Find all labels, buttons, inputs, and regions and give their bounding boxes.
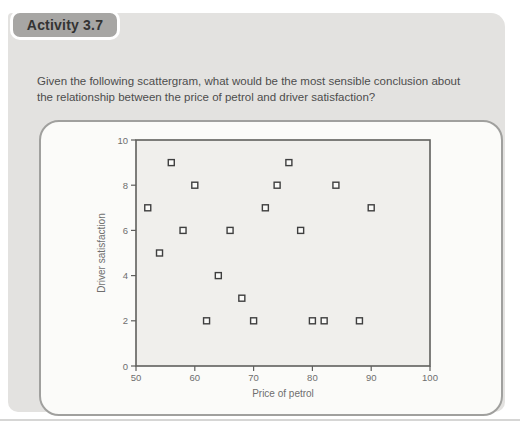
activity-badge: Activity 3.7 [10, 10, 120, 40]
question-line-1: Given the following scattergram, what wo… [37, 74, 507, 90]
scatter-point [180, 227, 186, 233]
x-tick-label: 80 [307, 372, 318, 383]
scatter-point [204, 318, 210, 324]
scatter-point [192, 182, 198, 188]
y-tick-label: 6 [123, 225, 128, 236]
plot-area [136, 140, 430, 366]
x-axis-label: Price of petrol [252, 388, 314, 399]
scatter-point [157, 250, 163, 256]
y-axis-label: Driver satisfaction [96, 213, 107, 292]
scatter-point [286, 160, 292, 166]
scatter-point [145, 205, 151, 211]
x-tick-label: 90 [366, 372, 377, 383]
x-tick-label: 70 [248, 372, 259, 383]
question-line-2: the relationship between the price of pe… [37, 90, 507, 106]
chart-card: 50607080901000246810Price of petrolDrive… [39, 120, 503, 416]
y-tick-label: 8 [123, 180, 128, 191]
scatter-point [251, 318, 257, 324]
y-tick-label: 2 [123, 315, 128, 326]
scatter-point [368, 205, 374, 211]
scatter-point [321, 318, 327, 324]
x-tick-label: 50 [131, 372, 142, 383]
scatter-point [298, 227, 304, 233]
y-tick-label: 4 [123, 270, 128, 281]
textbook-page: Given the following scattergram, what wo… [0, 0, 520, 423]
scatter-point [168, 160, 174, 166]
x-tick-label: 100 [422, 372, 438, 383]
scatter-point [333, 182, 339, 188]
scatter-point [227, 227, 233, 233]
scatter-chart: 50607080901000246810Price of petrolDrive… [41, 122, 505, 418]
scatter-point [309, 318, 315, 324]
scatter-point [215, 273, 221, 279]
activity-panel: Given the following scattergram, what wo… [8, 13, 505, 412]
y-tick-label: 10 [117, 135, 128, 146]
x-tick-label: 60 [190, 372, 201, 383]
scatter-point [239, 295, 245, 301]
scatter-point [356, 318, 362, 324]
activity-badge-label: Activity 3.7 [27, 17, 103, 33]
scatter-point [274, 182, 280, 188]
scan-artifact-line [0, 419, 520, 421]
scatter-point [262, 205, 268, 211]
question-text: Given the following scattergram, what wo… [37, 74, 507, 105]
y-tick-label: 0 [123, 361, 128, 372]
